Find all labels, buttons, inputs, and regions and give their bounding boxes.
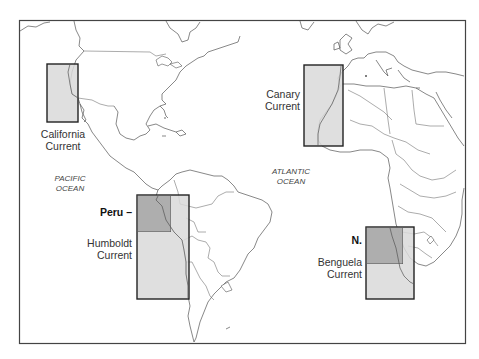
peru-sublabel: Peru – [98,206,132,218]
canary-current-label: Canary Current [262,88,300,112]
humboldt-current-label: Humboldt Current [82,237,132,261]
california-current-box [47,64,78,122]
benguela-current-label: Benguela Current [310,256,362,280]
benguela-label-line1: Benguela [310,256,362,268]
pacific-line1: PACIFIC [45,174,95,184]
canary-label-line1: Canary [262,88,300,100]
n-benguela-subregion-box [367,228,403,264]
humboldt-label-line2: Current [82,249,132,261]
pacific-line2: OCEAN [45,184,95,194]
canary-label-line2: Current [262,100,300,112]
coast-bahamas [164,117,166,119]
atlantic-ocean-label: ATLANTIC OCEAN [264,167,318,187]
benguela-label-line2: Current [310,268,362,280]
humboldt-label-line1: Humboldt [82,237,132,249]
peru-subregion-box [138,196,171,232]
atlantic-line2: OCEAN [264,177,318,187]
atlantic-line1: ATLANTIC [264,167,318,177]
california-label-line2: Current [37,140,89,152]
canary-current-box [304,65,343,146]
n-benguela-sublabel: N. [340,234,362,246]
california-current-label: California Current [37,128,89,152]
pacific-ocean-label: PACIFIC OCEAN [45,174,95,194]
california-label-line1: California [37,128,89,140]
island-corsica [365,75,367,77]
